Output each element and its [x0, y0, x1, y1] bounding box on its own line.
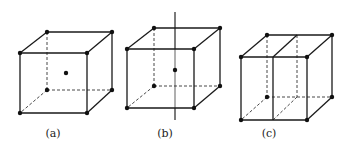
label-a: (a) [45, 127, 60, 140]
label-c: (c) [262, 127, 277, 140]
label-b: (b) [157, 127, 173, 140]
cube-b [127, 12, 220, 120]
cube-c [241, 35, 332, 120]
center-dot-b [173, 68, 177, 72]
center-dot-a [64, 71, 68, 75]
